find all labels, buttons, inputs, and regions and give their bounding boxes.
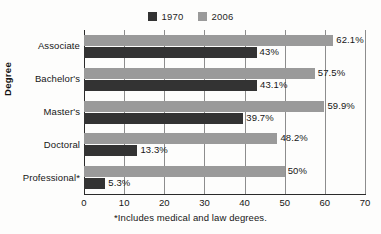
legend-label-1970: 1970 — [162, 11, 184, 22]
x-tick-label-70: 70 — [360, 197, 371, 208]
bar-2006-professional — [84, 166, 285, 177]
bar-chart: 1970 2006 Degree AssociateBachelor'sMast… — [0, 0, 381, 234]
chart-footnote: *Includes medical and law degrees. — [0, 212, 381, 223]
bar-value-1970: 43.1% — [260, 79, 287, 90]
y-tick-label-associate: Associate — [38, 40, 80, 51]
bar-value-2006: 48.2% — [280, 132, 307, 143]
x-tick-label-60: 60 — [320, 197, 331, 208]
bar-2006-masters — [84, 101, 324, 112]
x-tick-label-20: 20 — [159, 197, 170, 208]
bar-group: 59.9%39.7% — [84, 96, 365, 129]
legend-swatch-icon-1970 — [148, 12, 157, 21]
legend-label-2006: 2006 — [212, 11, 234, 22]
x-tick-label-10: 10 — [119, 197, 130, 208]
bar-value-1970: 13.3% — [140, 144, 167, 155]
legend-item-2006: 2006 — [198, 11, 234, 22]
gridline-70 — [365, 30, 366, 194]
x-tick-label-40: 40 — [239, 197, 250, 208]
bar-2006-bachelors — [84, 68, 315, 79]
legend-item-1970: 1970 — [148, 11, 184, 22]
bar-2006-doctoral — [84, 133, 277, 144]
bar-1970-doctoral — [84, 145, 137, 156]
y-tick-label-bachelors: Bachelor's — [35, 73, 80, 84]
bar-1970-bachelors — [84, 80, 257, 91]
chart-legend: 1970 2006 — [0, 8, 381, 24]
bar-value-1970: 43% — [260, 46, 279, 57]
bar-group: 62.1%43% — [84, 30, 365, 63]
y-tick-label-professional: Professional* — [23, 172, 80, 183]
bar-group: 50%5.3% — [84, 161, 365, 194]
bar-group: 48.2%13.3% — [84, 128, 365, 161]
bar-1970-professional — [84, 178, 105, 189]
x-tick-label-30: 30 — [199, 197, 210, 208]
bar-value-2006: 62.1% — [336, 34, 363, 45]
bar-value-2006: 59.9% — [327, 100, 354, 111]
y-tick-label-doctoral: Doctoral — [44, 139, 80, 150]
bar-1970-masters — [84, 113, 243, 124]
bar-1970-associate — [84, 47, 257, 58]
x-tick-label-0: 0 — [81, 197, 86, 208]
bar-value-2006: 57.5% — [318, 67, 345, 78]
bar-value-1970: 39.7% — [246, 112, 273, 123]
bar-value-2006: 50% — [288, 165, 307, 176]
bar-group: 57.5%43.1% — [84, 63, 365, 96]
x-axis-tick-labels: 010203040506070 — [84, 195, 366, 209]
bar-value-1970: 5.3% — [108, 177, 130, 188]
legend-swatch-icon-2006 — [198, 12, 207, 21]
bar-2006-associate — [84, 35, 333, 46]
x-tick-label-50: 50 — [279, 197, 290, 208]
y-tick-label-masters: Master's — [44, 106, 80, 117]
y-axis-tick-labels: AssociateBachelor'sMaster'sDoctoralProfe… — [0, 30, 80, 194]
plot-area: 62.1%43%57.5%43.1%59.9%39.7%48.2%13.3%50… — [84, 30, 365, 194]
